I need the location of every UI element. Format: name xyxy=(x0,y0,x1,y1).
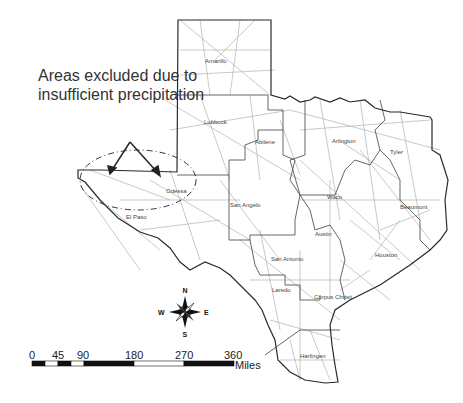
scale-tick-270: 270 xyxy=(175,349,193,361)
scale-bar xyxy=(32,361,234,366)
city-label: Amarillo xyxy=(205,58,227,64)
scale-tick-90: 90 xyxy=(77,349,89,361)
texas-map: Amarillo Lubbock Abilene Arlington Tyler… xyxy=(0,0,463,403)
scale-unit-label: Miles xyxy=(235,359,261,371)
city-label: Waco xyxy=(327,194,343,200)
annotation-line-2: insufficient precipitation xyxy=(38,85,204,104)
svg-text:N: N xyxy=(183,287,188,294)
city-label: Houston xyxy=(375,252,397,258)
city-label: Corpus Christi xyxy=(314,294,352,300)
city-label: Odessa xyxy=(166,188,187,194)
city-label: Abilene xyxy=(255,139,276,145)
city-label: Harlingen xyxy=(300,353,326,359)
city-label: El Paso xyxy=(126,214,147,220)
city-label: Laredo xyxy=(272,287,291,293)
scale-tick-0: 0 xyxy=(29,349,35,361)
svg-text:S: S xyxy=(183,331,188,338)
svg-text:E: E xyxy=(204,309,209,316)
scale-tick-45: 45 xyxy=(52,349,64,361)
excluded-area-ellipse xyxy=(80,150,196,210)
svg-text:W: W xyxy=(158,309,165,316)
city-label: Tyler xyxy=(390,149,403,155)
city-label: Beaumont xyxy=(400,204,428,210)
city-label: San Angelo xyxy=(230,202,261,208)
compass-rose-icon: N S E W xyxy=(158,287,209,338)
city-label: San Antonio xyxy=(271,256,304,262)
scale-tick-180: 180 xyxy=(125,349,143,361)
city-label: Arlington xyxy=(332,138,356,144)
city-label: Austin xyxy=(315,231,332,237)
annotation-line-1: Areas excluded due to xyxy=(38,66,197,85)
city-label: Lubbock xyxy=(204,119,228,125)
